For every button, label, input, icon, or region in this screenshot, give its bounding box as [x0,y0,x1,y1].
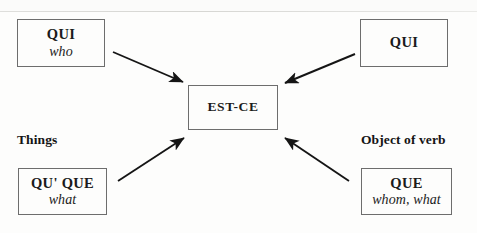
arrow-bottom-left [118,138,184,181]
scan-seam-line [0,11,477,12]
node-qui-object: QUI [360,19,448,67]
node-term: QUI [47,27,75,43]
arrow-top-right [285,54,355,83]
scan-top-wash [0,0,477,11]
arrow-bottom-right [285,138,349,181]
node-term: QU' QUE [31,176,94,192]
node-qui-subject: QUI who [17,19,105,67]
node-que-object: QUE whom, what [361,168,452,215]
node-term: EST-CE [207,100,258,115]
diagram-canvas: QUI who QUI EST-CE QU' QUE what QUE whom… [0,0,477,233]
label-object-of-verb: Object of verb [361,132,446,148]
node-gloss: who [49,44,73,59]
node-gloss: whom, what [372,192,441,207]
node-gloss: what [49,192,77,207]
node-term: QUE [390,176,422,192]
node-qu-que-subject: QU' QUE what [18,168,107,215]
node-term: QUI [390,35,418,51]
label-things: Things [17,132,57,148]
node-est-ce: EST-CE [188,85,278,130]
arrow-top-left [113,52,183,82]
